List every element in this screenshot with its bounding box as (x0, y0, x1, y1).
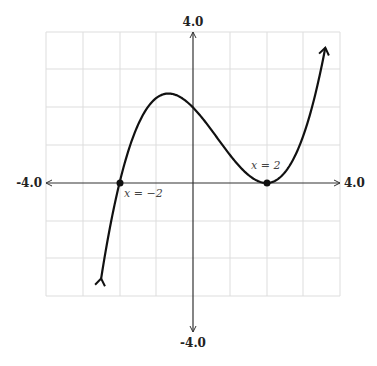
y-min-label: -4.0 (180, 336, 206, 350)
root-label-right: x = 2 (251, 159, 280, 172)
root-label-left: x = −2 (124, 187, 163, 200)
function-curve (101, 48, 325, 279)
y-max-label: 4.0 (183, 15, 204, 29)
x-min-label: -4.0 (16, 176, 42, 190)
function-plot: 4.0 -4.0 -4.0 4.0 x = −2 x = 2 (0, 0, 377, 366)
x-max-label: 4.0 (344, 176, 365, 190)
root-point-right (264, 180, 271, 187)
root-point-left (117, 180, 124, 187)
axes (46, 32, 340, 332)
